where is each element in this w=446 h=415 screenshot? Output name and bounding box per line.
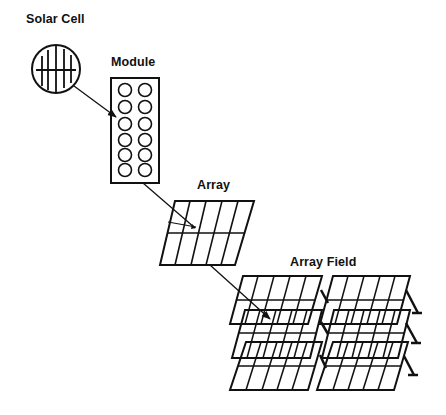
module-icon [111, 78, 159, 183]
field-panel-right-back [320, 276, 410, 324]
solar-cell-icon [32, 45, 80, 93]
field-supports-right [404, 290, 422, 375]
diagram-canvas [0, 0, 446, 415]
arrow-module-to-array [143, 183, 195, 228]
arrow-cell-to-module [74, 86, 116, 117]
field-panel-right-middle [322, 310, 410, 358]
array-field-icon [230, 276, 422, 390]
field-panel-right-front [317, 342, 408, 390]
field-panel-left-front [230, 342, 322, 390]
pv-hierarchy-diagram: Solar Cell Module Array Array Field [0, 0, 446, 415]
field-panel-left-middle [232, 310, 322, 358]
